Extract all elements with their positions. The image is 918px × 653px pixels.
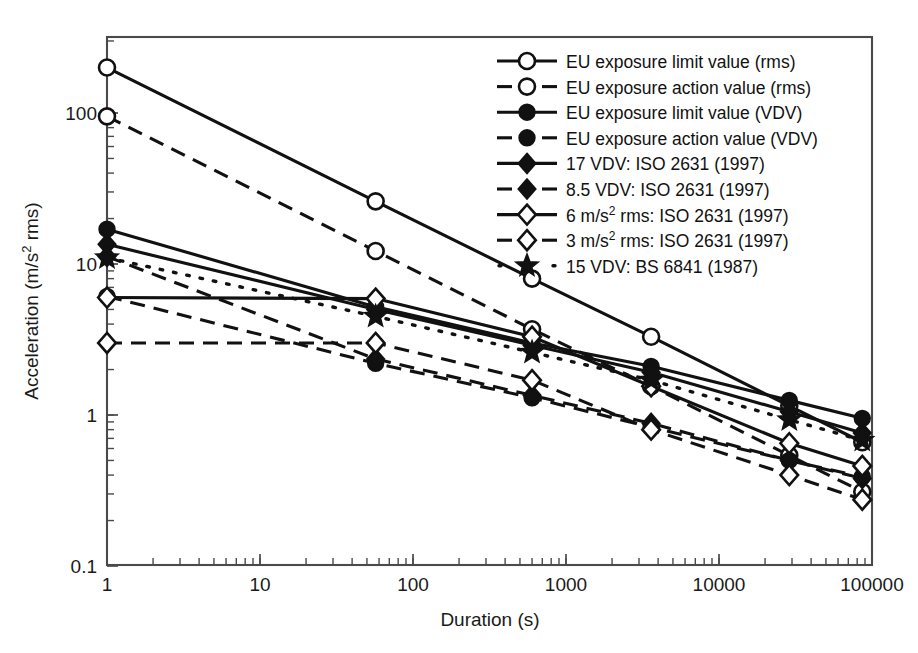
acceleration-vs-duration-chart: 110100100010000100000 0.1110100 EU expos… [0,0,918,653]
open-circle-marker [519,79,535,95]
legend-label: EU exposure limit value (VDV) [566,103,802,123]
legend-label: EU exposure limit value (rms) [566,52,796,72]
marker-open-circle [99,60,115,76]
x-tick-label: 10 [249,574,270,595]
filled-circle-marker [519,130,534,145]
legend-label: 17 VDV: ISO 2631 (1997) [566,154,765,174]
marker-open-circle [368,193,384,209]
legend-label: EU exposure action value (VDV) [566,129,818,149]
open-circle-marker [519,53,535,69]
y-tick-label: 10 [76,254,97,275]
x-tick-label: 100000 [840,574,903,595]
open-circle-marker [643,329,659,345]
legend-label: 8.5 VDV: ISO 2631 (1997) [566,180,770,200]
marker-open-circle [368,243,384,259]
marker-filled-circle [519,105,534,120]
x-axis-label: Duration (s) [440,609,539,630]
open-circle-marker [368,193,384,209]
legend-label: EU exposure action value (rms) [566,78,811,98]
legend-label: 3 m/s2 rms: ISO 2631 (1997) [566,229,789,251]
x-tick-label: 1000 [545,574,587,595]
marker-open-circle [519,53,535,69]
marker-open-circle [99,108,115,124]
y-axis-label: Acceleration (m/s2 rms) [19,202,43,399]
legend-label: 6 m/s2 rms: ISO 2631 (1997) [566,204,789,226]
y-tick-label: 100 [65,103,97,124]
open-circle-marker [99,60,115,76]
chart-container: 110100100010000100000 0.1110100 EU expos… [0,0,918,653]
x-tick-label: 1 [102,574,113,595]
open-circle-marker [368,243,384,259]
marker-filled-circle [519,130,534,145]
filled-circle-marker [519,105,534,120]
y-tick-label: 1 [86,405,97,426]
x-tick-label: 100 [397,574,429,595]
marker-open-circle [519,79,535,95]
marker-open-circle [643,329,659,345]
x-tick-label: 10000 [693,574,746,595]
y-tick-label: 0.1 [71,556,97,577]
legend-label: 15 VDV: BS 6841 (1987) [566,257,758,277]
open-circle-marker [99,108,115,124]
